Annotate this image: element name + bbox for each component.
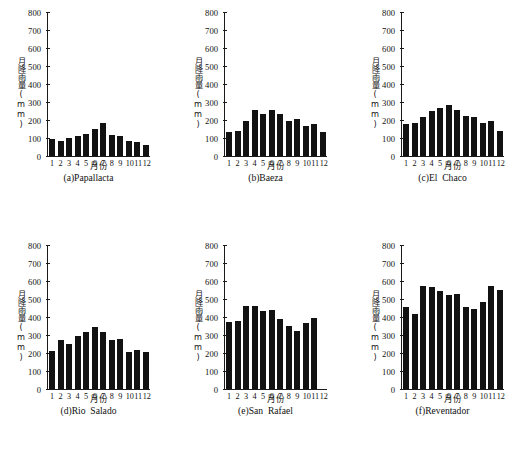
bar <box>92 327 98 389</box>
y-tick-label: 200 <box>28 116 41 126</box>
bar <box>446 105 452 156</box>
y-tick-label: 200 <box>205 116 218 126</box>
bar-series-b <box>225 12 327 156</box>
bar <box>454 110 460 156</box>
bar <box>294 331 300 389</box>
y-tick-label: 500 <box>28 62 41 72</box>
x-axis-title-b: 月份 <box>224 159 327 171</box>
y-tick-label: 700 <box>205 259 218 269</box>
chart-panel-f: 月降雨量(mm)80070060050040030020010001234567… <box>354 233 531 467</box>
y-tick-label: 500 <box>205 295 218 305</box>
y-tick-label: 400 <box>382 80 395 90</box>
y-tick-label: 0 <box>37 152 41 162</box>
bar <box>277 319 283 389</box>
y-tick-label: 0 <box>391 385 395 395</box>
bar <box>66 344 72 389</box>
panel-caption-e: (e)San Rafael <box>177 405 354 416</box>
bar <box>83 332 89 389</box>
y-tick-label: 100 <box>205 134 218 144</box>
bar <box>480 123 486 156</box>
y-tick-label: 100 <box>28 367 41 377</box>
y-tick-label: 400 <box>382 313 395 323</box>
bar <box>49 351 55 389</box>
y-tick-label: 700 <box>382 26 395 36</box>
y-tick-label: 100 <box>205 367 218 377</box>
y-tick-label: 700 <box>28 26 41 36</box>
y-tick-label: 800 <box>205 241 218 251</box>
x-axis-line <box>47 156 150 157</box>
y-tick-label: 600 <box>205 44 218 54</box>
y-tick-label: 800 <box>382 8 395 18</box>
plot-area-a: 月降雨量(mm)80070060050040030020010001234567… <box>0 0 177 233</box>
plot-area-e: 月降雨量(mm)80070060050040030020010001234567… <box>177 233 354 467</box>
plot-box-e: 8007006005004003002001000123456789101112 <box>224 245 327 390</box>
bar <box>100 123 106 156</box>
panel-caption-f: (f)Reventador <box>354 405 531 416</box>
bar <box>252 110 258 156</box>
bar <box>92 129 98 156</box>
panel-caption-b: (b)Baeza <box>177 172 354 183</box>
bar <box>446 295 452 389</box>
plot-box-b: 8007006005004003002001000123456789101112 <box>224 12 327 157</box>
bar <box>471 117 477 156</box>
x-axis-title-a: 月份 <box>47 159 150 171</box>
bar <box>437 291 443 389</box>
y-tick-label: 100 <box>28 134 41 144</box>
y-tick: 0 <box>46 389 50 390</box>
bar <box>143 145 149 156</box>
y-tick-label: 500 <box>382 295 395 305</box>
x-axis-line <box>224 389 327 390</box>
y-tick-label: 300 <box>28 98 41 108</box>
bar <box>49 139 55 156</box>
plot-area-d: 月降雨量(mm)80070060050040030020010001234567… <box>0 233 177 467</box>
y-tick-label: 500 <box>382 62 395 72</box>
y-tick-label: 700 <box>28 259 41 269</box>
x-axis-title-d: 月份 <box>47 392 150 404</box>
panel-caption-d: (d)Rio Salado <box>0 405 177 416</box>
panel-caption-c: (c)El Chaco <box>354 172 531 183</box>
bar <box>303 126 309 156</box>
chart-panel-c: 月降雨量(mm)80070060050040030020010001234567… <box>354 0 531 233</box>
plot-box-a: 8007006005004003002001000123456789101112 <box>47 12 150 157</box>
bar <box>454 294 460 389</box>
figure-grid: 月降雨量(mm)80070060050040030020010001234567… <box>0 0 531 467</box>
plot-box-d: 8007006005004003002001000123456789101112 <box>47 245 150 390</box>
y-tick-label: 600 <box>28 277 41 287</box>
y-axis-title-b: 月降雨量(mm) <box>191 18 204 168</box>
bar <box>437 108 443 156</box>
bar <box>311 318 317 389</box>
x-axis-title-f: 月份 <box>401 392 504 404</box>
bar <box>412 123 418 156</box>
bar <box>134 142 140 156</box>
y-tick-label: 300 <box>382 331 395 341</box>
bar <box>311 124 317 156</box>
chart-panel-b: 月降雨量(mm)80070060050040030020010001234567… <box>177 0 354 233</box>
bar <box>463 116 469 156</box>
bar <box>226 132 232 156</box>
bar <box>488 121 494 156</box>
bar <box>66 138 72 156</box>
y-tick-label: 300 <box>28 331 41 341</box>
panel-caption-a: (a)Papallacta <box>0 172 177 183</box>
y-tick-label: 0 <box>391 152 395 162</box>
bar <box>497 290 503 389</box>
plot-area-f: 月降雨量(mm)80070060050040030020010001234567… <box>354 233 531 467</box>
y-tick-label: 400 <box>205 80 218 90</box>
bar <box>58 141 64 156</box>
bar <box>412 314 418 389</box>
y-tick-label: 200 <box>28 349 41 359</box>
y-tick-label: 800 <box>382 241 395 251</box>
bar <box>75 136 81 156</box>
y-tick-label: 800 <box>28 241 41 251</box>
y-tick-label: 200 <box>382 116 395 126</box>
bar <box>420 286 426 389</box>
y-tick-label: 500 <box>28 295 41 305</box>
bar <box>243 121 249 156</box>
bar <box>463 307 469 389</box>
y-tick-label: 100 <box>382 367 395 377</box>
bar <box>243 306 249 389</box>
bar <box>303 323 309 389</box>
bar <box>286 121 292 156</box>
x-axis-line <box>401 389 504 390</box>
bar <box>235 321 241 389</box>
